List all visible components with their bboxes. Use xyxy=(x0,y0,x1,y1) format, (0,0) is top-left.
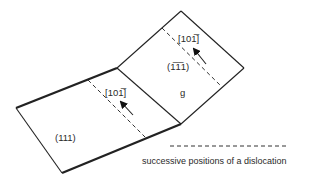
plane-label-111: (111) xyxy=(55,132,76,143)
legend: successive positions of a dislocation xyxy=(142,146,287,166)
legend-text: successive positions of a dislocation xyxy=(142,156,287,166)
intersection-edge xyxy=(117,68,181,124)
plane-cross-right-edge xyxy=(181,68,244,124)
burgers-arrow-primary xyxy=(121,102,133,115)
plane-cross-left-edge xyxy=(117,11,181,68)
burgers-label-primary: [101̅] xyxy=(105,87,126,98)
plane-111-top-edge xyxy=(16,68,117,108)
plane-label-1bar11: (1̅1̅1) xyxy=(167,61,189,72)
burgers-label-cross: [101̅] xyxy=(178,33,199,44)
grain-label: g xyxy=(180,87,185,98)
dislocation-diagram: [101̅] (111) [101̅] (1̅1̅1) g successive… xyxy=(0,0,320,183)
burgers-arrow-cross xyxy=(194,49,206,64)
